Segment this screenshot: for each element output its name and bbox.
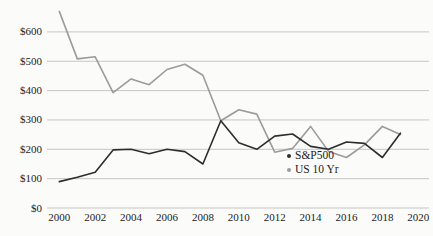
y-tick-label: $300 [20, 113, 43, 125]
series-line-sp500 [59, 121, 400, 182]
x-tick-label: 2012 [264, 211, 286, 223]
x-tick-label: 2014 [300, 211, 323, 223]
line-chart: $0$100$200$300$400$500$600 2000200220042… [0, 0, 433, 236]
legend: S&P500 US 10 Yr [287, 149, 339, 176]
x-tick-label: 2008 [192, 211, 215, 223]
gridlines [47, 32, 429, 208]
x-tick-label: 2016 [336, 211, 359, 223]
legend-item-us10yr: US 10 Yr [287, 163, 339, 176]
y-tick-label: $200 [20, 143, 43, 155]
y-tick-label: $100 [20, 172, 43, 184]
legend-label-sp500: S&P500 [295, 149, 334, 162]
y-tick-label: $0 [31, 202, 43, 214]
x-tick-label: 2006 [156, 211, 179, 223]
y-tick-label: $600 [20, 25, 43, 37]
legend-label-us10yr: US 10 Yr [295, 163, 339, 176]
legend-item-sp500: S&P500 [287, 149, 339, 162]
y-axis-labels: $0$100$200$300$400$500$600 [20, 25, 43, 213]
series-lines [59, 11, 400, 181]
chart-container: $0$100$200$300$400$500$600 2000200220042… [0, 0, 433, 236]
us10yr-marker-icon [287, 168, 291, 172]
x-tick-label: 2002 [84, 211, 106, 223]
sp500-marker-icon [287, 154, 291, 158]
x-axis-labels: 2000200220042006200820102012201420162018… [48, 211, 430, 223]
x-tick-label: 2004 [120, 211, 143, 223]
x-tick-label: 2020 [407, 211, 430, 223]
series-line-us10yr [59, 11, 400, 157]
x-tick-label: 2000 [48, 211, 71, 223]
y-tick-label: $400 [20, 84, 43, 96]
y-tick-label: $500 [20, 55, 43, 67]
x-tick-label: 2010 [228, 211, 251, 223]
x-tick-label: 2018 [371, 211, 394, 223]
